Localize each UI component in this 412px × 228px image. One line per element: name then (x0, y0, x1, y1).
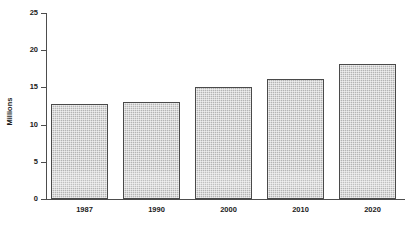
bar-sheen (52, 172, 107, 188)
y-tick-label-15: 15 (18, 83, 38, 91)
y-tick-label-25-wrap: 25 (14, 9, 38, 18)
bar-chart: Millions 0 5 10 15 20 25 (0, 0, 412, 228)
bar-1990[interactable] (123, 102, 180, 199)
bar-sheen (196, 172, 251, 188)
y-tick-label-0: 0 (18, 195, 38, 203)
bar-2010[interactable] (267, 79, 324, 199)
y-tick-label-0-wrap: 0 (14, 195, 38, 204)
y-tick-label-5-wrap: 5 (14, 158, 38, 167)
y-tick-label-5: 5 (18, 158, 38, 166)
y-tick-label-20-wrap: 20 (14, 46, 38, 55)
bar-2000[interactable] (195, 87, 252, 199)
bar-1987[interactable] (51, 104, 108, 199)
plot-area (46, 13, 405, 199)
y-tick-label-10-wrap: 10 (14, 121, 38, 130)
bar-sheen (268, 172, 323, 188)
y-tick-label-20: 20 (18, 46, 38, 54)
y-axis-title: Millions (5, 82, 14, 142)
y-tick-label-25: 25 (18, 9, 38, 17)
x-tick-label-1990: 1990 (123, 206, 190, 214)
y-tick-label-15-wrap: 15 (14, 83, 38, 92)
x-tick-label-2020: 2020 (339, 206, 406, 214)
y-tick-label-10: 10 (18, 121, 38, 129)
x-tick-label-1987: 1987 (51, 206, 118, 214)
bar-sheen (340, 172, 395, 188)
bar-2020[interactable] (339, 64, 396, 199)
x-tick-label-2010: 2010 (267, 206, 334, 214)
x-axis-line (46, 199, 405, 200)
bar-sheen (124, 172, 179, 188)
x-tick-label-2000: 2000 (195, 206, 262, 214)
